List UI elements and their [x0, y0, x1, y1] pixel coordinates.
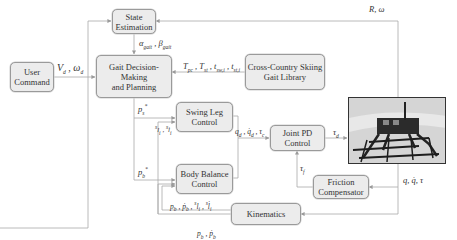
block-label: Gait Library: [264, 72, 306, 82]
signal-q-d: qd , q̇d , τc: [235, 127, 264, 140]
block-label: Control: [285, 138, 311, 148]
signal-q-tau: q, q̇, τ: [403, 175, 423, 185]
block-label: Body Balance: [181, 169, 229, 179]
block-label: Swing Leg: [186, 107, 223, 117]
joint-pd-block: Joint PDControl: [270, 125, 325, 151]
state-estimation-block: StateEstimation: [112, 9, 156, 34]
body-balance-block: Body BalanceControl: [176, 164, 233, 194]
signal-t-params: Tpc , Tst , tsw,i , tst,i: [183, 61, 240, 75]
block-label: and Planning: [112, 82, 157, 92]
signal-s-l: sli , sl̇i: [155, 122, 172, 138]
block-label: User: [24, 67, 40, 77]
signal-alpha-beta: αgait , βgait: [139, 38, 171, 52]
block-label: Kinematics: [247, 209, 286, 219]
signal-r-omega: R, ω: [369, 4, 384, 14]
kinematics-block: Kinematics: [231, 203, 301, 225]
block-label: Friction: [328, 177, 355, 187]
signal-ps-star: ps*: [138, 101, 147, 118]
block-label: Estimation: [116, 22, 153, 32]
quadruped-robot-icon: [349, 98, 446, 164]
user-command-block: UserCommand: [10, 62, 54, 92]
block-label: Control: [192, 117, 218, 127]
gait-decision-block: Gait Decision-Makingand Planning: [96, 55, 172, 98]
signal-tau-d: τd: [333, 127, 339, 141]
signal-v-omega-d: Vd , ωd: [57, 63, 83, 77]
block-label: Cross-Country Skiing: [248, 62, 322, 72]
block-label: Gait Decision-Making: [109, 62, 159, 82]
gait-library-block: Cross-Country SkiingGait Library: [245, 54, 325, 90]
block-label: Command: [14, 77, 49, 87]
block-label: Compensator: [318, 187, 363, 197]
signal-tau-f: τf: [300, 163, 305, 177]
signal-pb-star: pb*: [138, 164, 148, 181]
signal-pb-l: pb , ṗb , sli , sl̇i: [170, 198, 211, 214]
robot-photo: [348, 97, 446, 164]
friction-compensator-block: FrictionCompensator: [313, 175, 369, 199]
swing-leg-block: Swing LegControl: [176, 102, 233, 132]
block-label: Control: [192, 179, 218, 189]
signal-pb-pbdot: pb , ṗb: [197, 229, 216, 240]
block-label: State: [126, 12, 143, 22]
block-label: Joint PD: [283, 128, 313, 138]
